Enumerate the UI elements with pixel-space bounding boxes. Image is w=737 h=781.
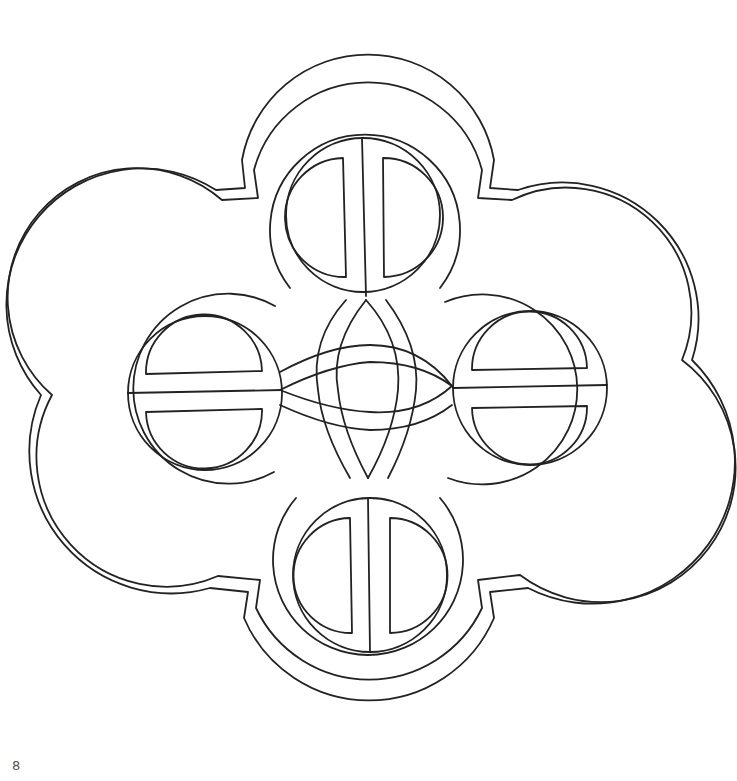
page-number: 8 xyxy=(12,758,20,773)
celtic-knot-artwork xyxy=(0,0,737,781)
bottom-circle xyxy=(293,498,448,652)
left-circle xyxy=(128,314,282,470)
right-circle xyxy=(453,311,607,465)
top-circle xyxy=(285,138,443,296)
central-interlace xyxy=(280,300,452,478)
quatrefoil-outer-border xyxy=(6,55,735,701)
